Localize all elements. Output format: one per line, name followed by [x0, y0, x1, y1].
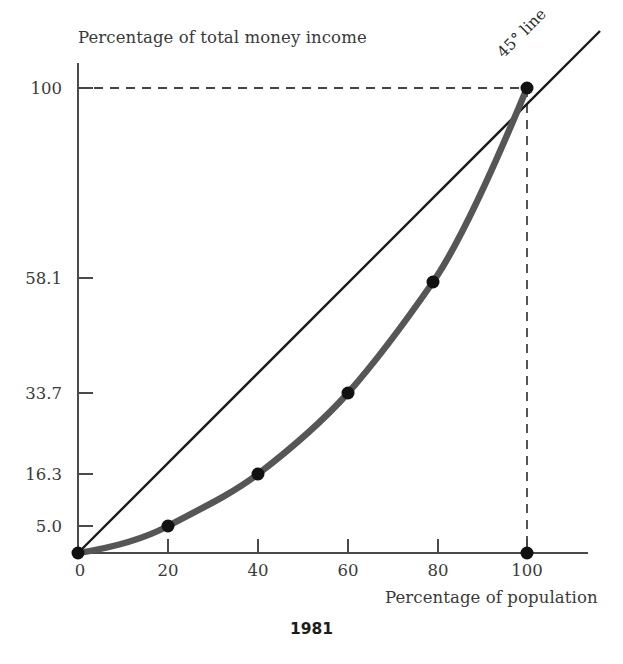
y-tick-label-34: 33.7: [0, 384, 62, 403]
x-tick-label-40: 40: [248, 561, 269, 580]
x-tick-marks: [168, 539, 527, 553]
data-point-markers: [72, 82, 534, 560]
equality-line-45deg: [78, 31, 600, 553]
lorenz-curve-figure: Percentage of total money income Percent…: [0, 0, 623, 664]
y-tick-label-100: 100: [0, 79, 62, 98]
data-point-40: [252, 468, 265, 481]
data-point-20: [162, 520, 175, 533]
x-tick-label-0: 0: [75, 561, 86, 580]
y-tick-label-5: 5.0: [0, 517, 62, 536]
x-tick-label-100: 100: [511, 561, 543, 580]
y-tick-label-58: 58.1: [0, 269, 62, 288]
y-tick-marks: [78, 88, 93, 526]
y-tick-label-16: 16.3: [0, 465, 62, 484]
x-axis-title: Percentage of population: [385, 588, 598, 607]
x-tick-label-60: 60: [338, 561, 359, 580]
lorenz-curve: [78, 88, 527, 553]
data-point-79: [427, 276, 440, 289]
y-axis-title: Percentage of total money income: [78, 28, 367, 47]
axis-marker-100: [521, 547, 534, 560]
x-tick-label-20: 20: [158, 561, 179, 580]
x-tick-label-80: 80: [428, 561, 449, 580]
data-point-100: [521, 82, 534, 95]
data-point-60: [342, 387, 355, 400]
figure-caption-year: 1981: [0, 620, 623, 638]
data-point-0: [72, 547, 85, 560]
